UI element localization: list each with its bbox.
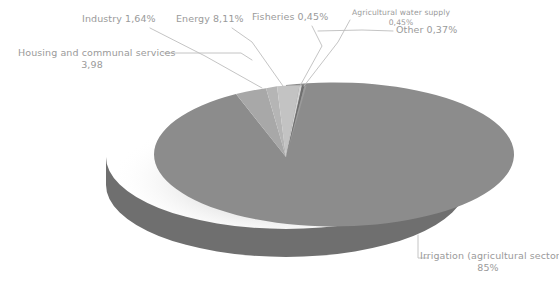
slice-label-housing-name: Housing and communal services xyxy=(18,47,166,59)
slice-label-energy: Energy 8,11% xyxy=(176,13,244,25)
slice-label-agricultural-water-supply-name: Agricultural water supply xyxy=(348,8,454,18)
slice-label-housing-value: 3,98 xyxy=(18,59,166,71)
leader-line-agricultural-water-supply xyxy=(304,20,350,86)
slice-label-irrigation-name: Irrigation (agricultural sector) xyxy=(420,250,556,262)
pie-slice-irrigation xyxy=(154,82,514,226)
slice-label-other: Other 0,37% xyxy=(396,24,457,36)
pie-chart-graphic xyxy=(0,0,559,283)
leader-line-housing xyxy=(163,53,252,60)
slice-label-irrigation: Irrigation (agricultural sector) 85% xyxy=(420,250,556,273)
slice-label-industry: Industry 1,64% xyxy=(82,13,156,25)
slice-label-housing-and-communal-services: Housing and communal services 3,98 xyxy=(18,47,166,70)
slice-label-fisheries: Fisheries 0,45% xyxy=(252,11,328,23)
leader-line-energy xyxy=(232,28,283,86)
leader-line-other xyxy=(318,30,393,31)
pie-chart-figure: Industry 1,64% Energy 8,11% Fisheries 0,… xyxy=(0,0,559,283)
slice-label-irrigation-value: 85% xyxy=(420,262,556,274)
